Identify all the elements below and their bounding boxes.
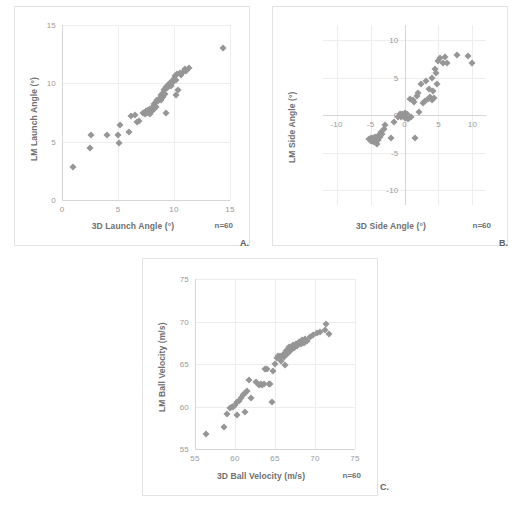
- data-point: [434, 80, 441, 87]
- x-tick-label: 65: [270, 454, 279, 463]
- data-point: [242, 409, 249, 416]
- chart-panel-c: 556065707555606570753D Ball Velocity (m/…: [142, 258, 378, 496]
- y-tick-label: 5: [373, 73, 399, 82]
- data-point: [86, 144, 93, 151]
- x-tick-label: 10: [468, 120, 477, 129]
- x-tick-label: 55: [190, 454, 199, 463]
- figure-container: 0510150510153D Launch Angle (°)LM Launch…: [0, 0, 522, 519]
- data-point: [245, 377, 252, 384]
- y-axis-title: LM Side Angle (°): [287, 92, 297, 163]
- data-point: [382, 121, 389, 128]
- y-tick-label: 0: [30, 196, 56, 205]
- gridline-vertical: [118, 25, 119, 200]
- panel-letter-a: A.: [240, 238, 249, 248]
- x-tick-label: 75: [350, 454, 359, 463]
- chart-panel-a: 0510150510153D Launch Angle (°)LM Launch…: [14, 6, 250, 246]
- panel-letter-c: C.: [380, 482, 389, 492]
- data-point: [465, 52, 472, 59]
- gridline-vertical: [315, 279, 316, 449]
- data-point: [412, 134, 419, 141]
- data-point: [326, 331, 333, 338]
- x-tick-label: 0: [60, 205, 65, 214]
- x-axis-line: [62, 200, 230, 201]
- y-tick-label: 75: [163, 275, 189, 284]
- data-point: [387, 134, 394, 141]
- x-tick-label: 70: [310, 454, 319, 463]
- data-point: [70, 164, 77, 171]
- y-tick-label: 55: [163, 445, 189, 454]
- sample-size-label: n=60: [215, 221, 233, 230]
- x-tick-label: 5: [436, 120, 441, 129]
- data-point: [220, 45, 227, 52]
- data-point: [88, 131, 95, 138]
- x-tick-label: -5: [367, 120, 375, 129]
- data-point: [282, 361, 289, 368]
- y-tick-label: 0: [373, 111, 399, 120]
- y-tick-label: -5: [373, 148, 399, 157]
- x-tick-label: 60: [230, 454, 239, 463]
- panel-letter-b: B.: [499, 238, 508, 248]
- gridline-horizontal: [62, 142, 230, 143]
- chart-panel-b: -10-50510-10-505103D Side Angle (°)LM Si…: [272, 6, 508, 246]
- data-point: [203, 430, 210, 437]
- plot-canvas-a: [62, 25, 230, 200]
- data-point: [454, 51, 461, 58]
- sample-size-label: n=60: [473, 221, 491, 230]
- x-tick-label: 15: [225, 205, 234, 214]
- plot-area-c: [143, 259, 377, 495]
- data-point: [114, 131, 121, 138]
- data-point: [103, 131, 110, 138]
- data-point: [136, 117, 143, 124]
- gridline-vertical: [235, 279, 236, 449]
- x-tick-label: 0: [402, 120, 407, 129]
- gridline-vertical: [174, 25, 175, 200]
- data-point: [116, 139, 123, 146]
- data-point: [247, 394, 254, 401]
- y-tick-label: -10: [373, 186, 399, 195]
- data-point: [153, 103, 160, 110]
- y-tick-label: 10: [373, 36, 399, 45]
- data-point: [469, 59, 476, 66]
- plot-area-a: [15, 7, 249, 245]
- plot-canvas-b: [323, 25, 486, 205]
- y-tick-label: 15: [30, 21, 56, 30]
- x-tick-label: 10: [169, 205, 178, 214]
- y-axis-line: [62, 25, 63, 200]
- gridline-horizontal: [62, 83, 230, 84]
- x-tick-label: -10: [330, 120, 342, 129]
- data-point: [163, 109, 170, 116]
- x-tick-label: 5: [116, 205, 121, 214]
- gridline-vertical: [355, 279, 356, 449]
- x-axis-line: [195, 449, 355, 450]
- y-axis-title: LM Ball Velocity (m/s): [157, 322, 167, 412]
- data-point: [443, 60, 450, 67]
- data-point: [415, 89, 422, 96]
- gridline-vertical: [230, 25, 231, 200]
- data-point: [220, 423, 227, 430]
- data-point: [126, 129, 133, 136]
- y-axis-line: [195, 279, 196, 449]
- gridline-horizontal: [62, 25, 230, 26]
- plot-canvas-c: [195, 279, 355, 449]
- sample-size-label: n=60: [343, 471, 361, 480]
- y-axis-title: LM Launch Angle (°): [29, 77, 39, 161]
